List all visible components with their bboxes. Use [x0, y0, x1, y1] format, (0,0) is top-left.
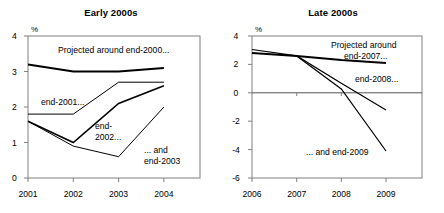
x-tick-label-right-2006: 2006 — [232, 189, 272, 199]
chart-late-2000s: Late 2000s % — [222, 0, 444, 213]
y-tick-label-left-4: 4 — [8, 31, 21, 41]
y-tick-label-left-2: 2 — [8, 102, 21, 112]
y-tick-label-left-1: 1 — [8, 138, 21, 148]
y-tick-label-right-neg4: -4 — [226, 145, 246, 155]
y-tick-label-right-neg2: -2 — [226, 116, 246, 126]
x-tick-label-right-2007: 2007 — [277, 189, 317, 199]
y-tick-label-right-0: 0 — [226, 88, 246, 98]
figure-root: Early 2000s % — [0, 0, 444, 213]
series-line-end-2009 — [297, 56, 386, 151]
annotation-end-2008: end-2008... — [355, 74, 398, 85]
x-axis-ticks-left — [28, 178, 164, 182]
annotation-projected-end-2000: Projected around end-2000... — [58, 45, 169, 56]
x-tick-label-right-2008: 2008 — [321, 189, 361, 199]
x-tick-label-left-2003: 2003 — [99, 189, 139, 199]
x-tick-label-left-2001: 2001 — [8, 189, 48, 199]
annotation-end-2001: end-2001... — [41, 97, 84, 108]
annotation-projected-around: Projected around — [331, 40, 396, 51]
x-tick-label-left-2002: 2002 — [53, 189, 93, 199]
plot-area-left — [0, 0, 222, 213]
y-tick-label-left-3: 3 — [8, 67, 21, 77]
plot-area-right — [222, 0, 444, 213]
annotation-end-2009: ... and end-2009 — [306, 147, 369, 158]
x-axis-ticks-right — [252, 178, 386, 182]
chart-early-2000s: Early 2000s % — [0, 0, 222, 213]
y-axis-ticks-right — [248, 36, 252, 178]
annotation-end-2002: end- 2002... — [95, 121, 121, 142]
y-tick-label-left-0: 0 — [8, 173, 21, 183]
y-tick-label-right-2: 2 — [226, 59, 246, 69]
y-axis-ticks-left — [24, 36, 28, 178]
annotation-end-2003: ... and end-2003 — [144, 145, 180, 166]
annotation-end-2007: end-2007... — [344, 51, 387, 62]
x-tick-label-right-2009: 2009 — [366, 189, 406, 199]
y-tick-label-right-4: 4 — [226, 31, 246, 41]
x-tick-label-left-2004: 2004 — [144, 189, 184, 199]
y-tick-label-right-neg6: -6 — [226, 173, 246, 183]
series-line-projected-end-2000 — [28, 64, 164, 71]
